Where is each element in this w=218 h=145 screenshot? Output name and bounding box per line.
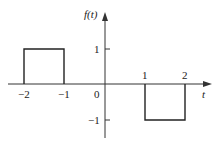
y-tick-label-1: 1 <box>94 43 100 55</box>
x-tick-label-1: 1 <box>142 69 148 81</box>
y-axis-arrow-icon <box>102 12 108 21</box>
y-axis-label: f(t) <box>84 8 98 21</box>
x-tick-label-neg1: −1 <box>58 88 70 100</box>
origin-label: 0 <box>94 88 100 100</box>
x-axis-label: t <box>202 88 206 100</box>
x-tick-label-2: 2 <box>182 69 188 81</box>
signal-plot: f(t) t −2 −1 0 1 2 1 −1 <box>0 0 218 145</box>
y-tick-label-neg1: −1 <box>88 114 100 126</box>
negative-pulse <box>145 84 185 120</box>
positive-pulse <box>24 49 64 84</box>
x-tick-label-neg2: −2 <box>18 88 30 100</box>
x-axis-arrow-icon <box>203 81 212 87</box>
